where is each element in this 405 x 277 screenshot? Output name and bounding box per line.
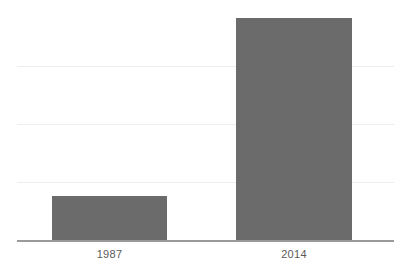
x-axis-line [17, 240, 394, 242]
bar-1987[interactable] [52, 196, 167, 240]
x-tick-label-1987: 1987 [52, 248, 167, 260]
bar-2014[interactable] [236, 18, 352, 240]
x-tick-label-2014: 2014 [236, 248, 352, 260]
bar-chart-figure: 1987 2014 [0, 0, 405, 277]
plot-area [17, 8, 394, 240]
